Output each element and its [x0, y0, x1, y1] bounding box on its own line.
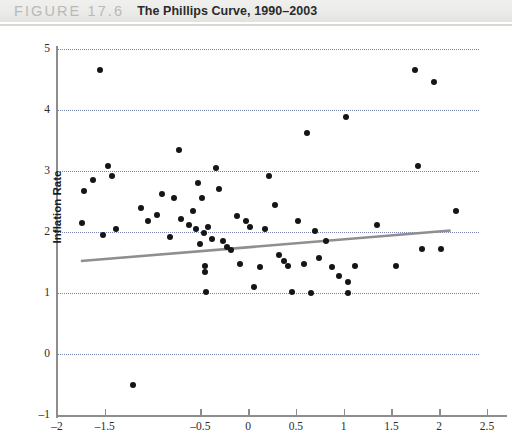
- gridline-y-2: [57, 232, 479, 233]
- data-point: [213, 165, 219, 171]
- data-point: [100, 232, 106, 238]
- y-tick-label: 5: [24, 42, 50, 54]
- data-point: [257, 264, 263, 270]
- data-point: [201, 230, 207, 236]
- data-point: [247, 224, 253, 230]
- data-point: [195, 180, 201, 186]
- data-point: [237, 261, 243, 267]
- x-tick-mark: [105, 409, 106, 416]
- y-axis-title: Inflation Rate: [51, 142, 63, 272]
- data-point: [393, 263, 399, 269]
- x-tick-label: –0.5: [180, 420, 220, 432]
- data-point: [289, 289, 295, 295]
- data-point: [97, 67, 103, 73]
- data-point: [438, 246, 444, 252]
- x-tick-mark: [439, 409, 440, 416]
- figure-title: The Phillips Curve, 1990–2003: [137, 4, 317, 18]
- data-point: [419, 246, 425, 252]
- trend-line: [0, 26, 512, 435]
- data-point: [220, 238, 226, 244]
- data-point: [81, 188, 87, 194]
- y-tick-label: 1: [24, 286, 50, 298]
- y-tick-label: –1: [24, 408, 50, 420]
- x-tick-label: 2.5: [467, 420, 507, 432]
- data-point: [209, 236, 215, 242]
- data-point: [345, 290, 351, 296]
- x-tick-mark: [57, 409, 58, 416]
- x-tick-label: –2: [37, 420, 77, 432]
- x-tick-label: 1: [324, 420, 364, 432]
- data-point: [234, 213, 240, 219]
- y-tick-label: 0: [24, 347, 50, 359]
- data-point: [193, 226, 199, 232]
- data-point: [138, 205, 144, 211]
- data-point: [203, 289, 209, 295]
- data-point: [167, 234, 173, 240]
- data-point: [343, 114, 349, 120]
- data-point: [336, 273, 342, 279]
- figure-number-label: FIGURE 17.6: [14, 3, 124, 19]
- data-point: [415, 163, 421, 169]
- data-point: [295, 218, 301, 224]
- gridline-y-0: [57, 354, 479, 355]
- data-point: [178, 216, 184, 222]
- data-point: [308, 290, 314, 296]
- x-tick-mark: [344, 409, 345, 416]
- data-point: [90, 177, 96, 183]
- x-tick-mark: [296, 409, 297, 416]
- x-tick-label: 2: [419, 420, 459, 432]
- phillips-curve-chart: –1012345 –2–1.5–0.500.511.522.5 Inflatio…: [0, 26, 512, 435]
- data-point: [374, 222, 380, 228]
- data-point: [285, 263, 291, 269]
- data-point: [199, 195, 205, 201]
- x-tick-label: –1.5: [85, 420, 125, 432]
- data-point: [272, 202, 278, 208]
- y-tick-label: 3: [24, 164, 50, 176]
- data-point: [154, 212, 160, 218]
- data-point: [266, 173, 272, 179]
- data-point: [301, 261, 307, 267]
- x-tick-label: 1.5: [371, 420, 411, 432]
- data-point: [216, 186, 222, 192]
- gridline-y-4: [57, 110, 479, 111]
- data-point: [105, 163, 111, 169]
- data-point: [176, 147, 182, 153]
- data-point: [228, 247, 234, 253]
- data-point: [145, 218, 151, 224]
- data-point: [205, 224, 211, 230]
- y-tick-label: 4: [24, 103, 50, 115]
- figure-header: FIGURE 17.6 The Phillips Curve, 1990–200…: [0, 0, 512, 22]
- x-tick-mark: [248, 409, 249, 416]
- data-point: [171, 195, 177, 201]
- data-point: [251, 284, 257, 290]
- data-point: [276, 252, 282, 258]
- data-point: [159, 191, 165, 197]
- data-point: [79, 220, 85, 226]
- x-tick-label: 0: [228, 420, 268, 432]
- data-point: [197, 241, 203, 247]
- data-point: [412, 67, 418, 73]
- x-tick-mark: [200, 409, 201, 416]
- x-tick-mark: [391, 409, 392, 416]
- data-point: [130, 382, 136, 388]
- gridline-y-3: [57, 171, 479, 172]
- x-tick-mark: [487, 409, 488, 416]
- data-point: [202, 269, 208, 275]
- data-point: [109, 173, 115, 179]
- x-tick-label: 0.5: [276, 420, 316, 432]
- data-point: [323, 238, 329, 244]
- data-point: [186, 222, 192, 228]
- data-point: [316, 255, 322, 261]
- data-point: [202, 263, 208, 269]
- data-point: [329, 264, 335, 270]
- data-point: [312, 228, 318, 234]
- y-tick-label: 2: [24, 225, 50, 237]
- data-point: [190, 208, 196, 214]
- gridline-y-1: [57, 293, 479, 294]
- data-point: [352, 263, 358, 269]
- data-point: [345, 279, 351, 285]
- data-point: [304, 130, 310, 136]
- data-point: [243, 218, 249, 224]
- data-point: [431, 79, 437, 85]
- data-point: [453, 208, 459, 214]
